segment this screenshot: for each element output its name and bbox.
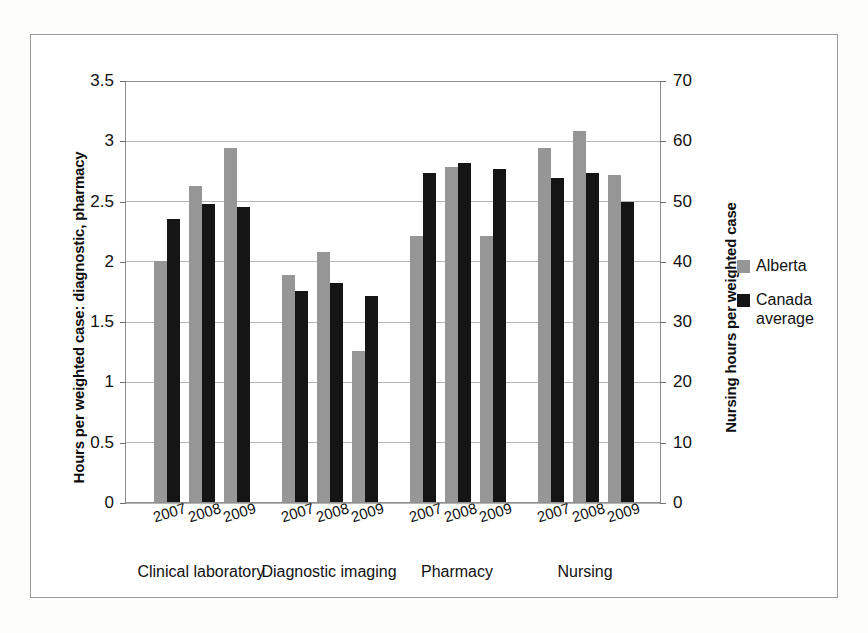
- bar-alberta: [410, 236, 423, 502]
- bar-alberta: [224, 148, 237, 502]
- x-axis-year-label: 2008: [442, 499, 479, 525]
- bar-canada-average: [621, 202, 634, 502]
- bar-canada-average: [551, 178, 564, 502]
- legend-item-canada-average: Canada average: [737, 291, 847, 328]
- bar-alberta: [282, 275, 295, 502]
- left-axis-tick: [120, 141, 126, 142]
- bar-canada-average: [586, 173, 599, 502]
- bar-series-container: [126, 81, 660, 502]
- legend-label-canada-average: Canada average: [756, 291, 814, 328]
- bar-canada-average: [493, 169, 506, 502]
- x-axis-group-label: Diagnostic imaging: [261, 563, 396, 581]
- bar-canada-average: [295, 291, 308, 502]
- bar-alberta: [317, 252, 330, 502]
- figure-frame: Hours per weighted case: diagnostic, pha…: [30, 34, 838, 598]
- figure-container: Hours per weighted case: diagnostic, pha…: [0, 0, 868, 633]
- x-axis-year-label: 2008: [186, 499, 223, 525]
- bar-alberta: [538, 148, 551, 502]
- bar-canada-average: [167, 219, 180, 502]
- right-axis-title: Nursing hours per weighted case: [722, 108, 739, 528]
- bar-canada-average: [458, 163, 471, 502]
- right-axis-tick-label: 40: [673, 253, 692, 270]
- x-axis-year-label: 2009: [221, 499, 258, 525]
- bar-alberta: [352, 351, 365, 502]
- bar-canada-average: [237, 207, 250, 502]
- x-axis-year-label: 2009: [477, 499, 514, 525]
- left-axis-tick-label: 1: [105, 373, 114, 390]
- bar-canada-average: [365, 296, 378, 502]
- bar-alberta: [480, 236, 493, 502]
- left-axis-tick: [120, 443, 126, 444]
- bar-alberta: [154, 261, 167, 502]
- right-axis-tick: [660, 322, 666, 323]
- bar-alberta: [189, 186, 202, 502]
- legend-swatch-alberta: [737, 260, 750, 273]
- x-axis-group-label: Clinical laboratory: [137, 563, 264, 581]
- left-axis-tick: [120, 202, 126, 203]
- left-axis-tick-label: 2.5: [90, 193, 114, 210]
- legend-item-alberta: Alberta: [737, 257, 847, 275]
- plot-area: 000.5101201.5302402.5503603.570: [125, 81, 661, 503]
- right-axis-tick-label: 70: [673, 72, 692, 89]
- x-axis-year-label: 2007: [151, 499, 188, 525]
- bar-alberta: [573, 131, 586, 502]
- left-axis-tick-label: 0.5: [90, 434, 114, 451]
- chart-legend: Alberta Canada average: [737, 257, 847, 344]
- right-axis-tick: [660, 443, 666, 444]
- legend-swatch-canada-average: [737, 294, 750, 307]
- x-axis-year-label: 2009: [605, 499, 642, 525]
- x-axis-year-labels: 2007200820092007200820092007200820092007…: [31, 503, 839, 547]
- right-axis-tick-label: 30: [673, 313, 692, 330]
- left-axis-tick-label: 3.5: [90, 72, 114, 89]
- right-axis-tick-label: 20: [673, 373, 692, 390]
- left-axis-tick-label: 2: [105, 253, 114, 270]
- bar-canada-average: [330, 283, 343, 502]
- x-axis-group-label: Nursing: [557, 563, 612, 581]
- right-axis-tick: [660, 202, 666, 203]
- x-axis-group-label: Pharmacy: [421, 563, 493, 581]
- legend-label-alberta: Alberta: [756, 257, 807, 275]
- left-axis-title: Hours per weighted case: diagnostic, pha…: [70, 108, 87, 528]
- right-axis-tick: [660, 141, 666, 142]
- bar-alberta: [445, 167, 458, 502]
- x-axis-year-label: 2008: [314, 499, 351, 525]
- left-axis-tick: [120, 382, 126, 383]
- left-axis-tick: [120, 322, 126, 323]
- legend-label-canada-line2: average: [756, 310, 814, 327]
- right-axis-tick: [660, 81, 666, 82]
- x-axis-year-label: 2007: [407, 499, 444, 525]
- right-axis-tick: [660, 382, 666, 383]
- right-axis-tick-label: 10: [673, 434, 692, 451]
- bar-canada-average: [423, 173, 436, 502]
- x-axis-group-labels: Clinical laboratoryDiagnostic imagingPha…: [31, 563, 839, 589]
- right-axis-tick-label: 60: [673, 132, 692, 149]
- x-axis-year-label: 2009: [349, 499, 386, 525]
- right-axis-tick: [660, 262, 666, 263]
- x-axis-year-label: 2008: [570, 499, 607, 525]
- x-axis-year-label: 2007: [279, 499, 316, 525]
- x-axis-year-label: 2007: [535, 499, 572, 525]
- left-axis-tick: [120, 81, 126, 82]
- right-axis-tick-label: 50: [673, 193, 692, 210]
- left-axis-tick-label: 3: [105, 132, 114, 149]
- legend-label-canada-line1: Canada: [756, 291, 812, 308]
- bar-alberta: [608, 175, 621, 502]
- left-axis-tick-label: 1.5: [90, 313, 114, 330]
- left-axis-tick: [120, 262, 126, 263]
- bar-canada-average: [202, 204, 215, 502]
